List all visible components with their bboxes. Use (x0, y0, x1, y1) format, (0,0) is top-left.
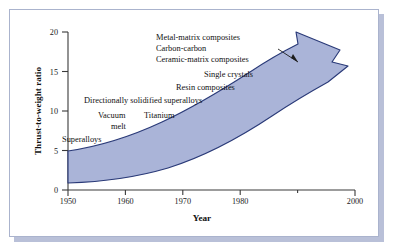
x-axis-title: Year (193, 213, 211, 223)
x-axis-ticks (68, 190, 355, 196)
annotation-resin-composites: Resin composites (176, 83, 235, 92)
annotation-ceramic-matrix-composites: Ceramic-matrix composites (156, 55, 249, 64)
annotation-superalloys: Superalloys (62, 135, 102, 144)
y-axis-title: Thrust-to-weight ratio (33, 67, 43, 155)
annotation-directionally-solidified-superalloys: Directionally solidified superalloys (84, 96, 202, 105)
thrust-to-weight-chart: 0 5 10 15 20 1950 (10, 10, 380, 238)
annotation-titanium: Titanium (144, 111, 175, 120)
annotation-single-crystals: Single crystals (204, 70, 253, 79)
x-tick-label-1970: 1970 (175, 197, 191, 206)
annotation-melt: melt (111, 122, 127, 131)
x-tick-label-1980: 1980 (232, 197, 248, 206)
x-axis: 1950 1960 1970 1980 2000 (60, 190, 363, 206)
annotation-carbon-carbon: Carbon-carbon (156, 44, 207, 53)
y-axis: 0 5 10 15 20 (50, 28, 68, 195)
y-tick-label-0: 0 (54, 186, 58, 195)
x-tick-label-2000: 2000 (347, 197, 363, 206)
y-tick-label-5: 5 (54, 147, 58, 156)
y-tick-label-20: 20 (50, 28, 58, 37)
x-tick-label-1960: 1960 (117, 197, 133, 206)
y-axis-ticks (62, 32, 68, 190)
x-tick-label-1950: 1950 (60, 197, 76, 206)
plot-area: 0 5 10 15 20 1950 (10, 10, 380, 238)
figure-frame: 0 5 10 15 20 1950 (9, 9, 379, 237)
annotation-vacuum: Vacuum (98, 111, 126, 120)
annotation-metal-matrix-composites: Metal-matrix composites (156, 33, 240, 42)
figure-container: 0 5 10 15 20 1950 (0, 0, 394, 252)
y-tick-label-15: 15 (50, 68, 58, 77)
y-tick-label-10: 10 (50, 107, 58, 116)
